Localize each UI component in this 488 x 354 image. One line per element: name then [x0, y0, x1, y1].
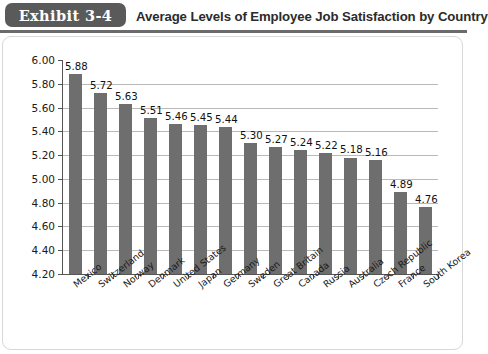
exhibit-header: Exhibit 3-4 Average Levels of Employee J…: [0, 0, 467, 32]
bar-value-label: 5.30: [240, 130, 263, 141]
bar: [344, 158, 357, 275]
y-axis-tick: [58, 203, 63, 204]
bar: [269, 147, 282, 274]
bar-value-label: 5.22: [315, 140, 338, 151]
chart-container: 6.005.805.605.405.205.004.804.604.404.20…: [0, 36, 467, 354]
y-axis-tick: [58, 155, 63, 156]
y-axis-tick: [58, 179, 63, 180]
bar-value-label: 5.44: [215, 114, 238, 125]
y-axis-tick: [58, 250, 63, 251]
y-axis-tick: [58, 226, 63, 227]
y-axis-label: 5.40: [32, 125, 55, 137]
header-divider: [0, 30, 467, 33]
exhibit-title: Average Levels of Employee Job Satisfact…: [136, 5, 462, 27]
y-axis-label: 5.00: [32, 173, 55, 185]
bar: [119, 104, 132, 274]
y-axis-label: 4.80: [32, 197, 55, 209]
bar-value-label: 5.46: [165, 111, 188, 122]
y-axis-label: 6.00: [32, 54, 55, 66]
y-axis-tick: [58, 131, 63, 132]
y-axis-tick: [58, 84, 63, 85]
bar: [144, 118, 157, 274]
bar-value-label: 5.51: [140, 105, 163, 116]
y-axis-label: 5.60: [32, 102, 55, 114]
y-axis-tick: [58, 108, 63, 109]
plot-area: 6.005.805.605.405.205.004.804.604.404.20…: [62, 60, 438, 275]
y-axis-tick: [58, 274, 63, 275]
bar-value-label: 5.24: [290, 137, 313, 148]
y-axis-label: 5.20: [32, 149, 55, 161]
gridline: [63, 84, 438, 85]
y-axis-label: 4.20: [32, 268, 55, 280]
y-axis-tick: [58, 60, 63, 61]
y-axis-label: 4.60: [32, 220, 55, 232]
bar-value-label: 4.76: [415, 194, 438, 205]
bar-value-label: 5.72: [90, 80, 113, 91]
bar: [169, 124, 182, 274]
bar-value-label: 5.18: [340, 144, 363, 155]
bar-value-label: 4.89: [390, 179, 413, 190]
bar-value-label: 5.27: [265, 134, 288, 145]
bar-value-label: 5.16: [365, 147, 388, 158]
bar: [194, 125, 207, 274]
bar: [69, 74, 82, 274]
bar-value-label: 5.45: [190, 112, 213, 123]
bar-value-label: 5.88: [65, 61, 88, 72]
y-axis-label: 4.40: [32, 244, 55, 256]
bar-value-label: 5.63: [115, 91, 138, 102]
bar: [94, 93, 107, 274]
y-axis-label: 5.80: [32, 78, 55, 90]
exhibit-number-badge: Exhibit 3-4: [5, 3, 126, 27]
